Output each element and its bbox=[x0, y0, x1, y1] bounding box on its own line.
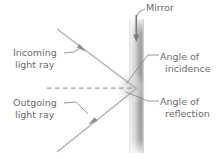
label-outgoing-line2: light ray bbox=[13, 109, 57, 121]
label-angle-of-incidence: Angle of incidence bbox=[160, 51, 211, 74]
outgoing-label-leader bbox=[64, 102, 88, 114]
label-incoming-line2: light ray bbox=[13, 59, 57, 71]
label-outgoing-light-ray: Outgoing light ray bbox=[13, 97, 57, 120]
reflected-ray bbox=[57, 88, 137, 152]
label-reflection-line1: Angle of bbox=[160, 96, 199, 107]
diagram-canvas bbox=[0, 0, 217, 159]
label-incidence-line1: Angle of bbox=[160, 51, 199, 62]
reflection-diagram: Mirror Incoming light ray Outgoing light… bbox=[0, 0, 217, 159]
label-outgoing-line1: Outgoing bbox=[13, 97, 57, 108]
label-mirror: Mirror bbox=[146, 2, 174, 14]
incident-ray bbox=[57, 29, 137, 89]
label-reflection-line2: reflection bbox=[160, 108, 210, 120]
label-angle-of-reflection: Angle of reflection bbox=[160, 96, 210, 119]
label-mirror-line1: Mirror bbox=[146, 2, 174, 13]
label-incoming-line1: Incoming bbox=[13, 47, 57, 58]
label-incidence-line2: incidence bbox=[160, 63, 211, 75]
label-incoming-light-ray: Incoming light ray bbox=[13, 47, 57, 70]
